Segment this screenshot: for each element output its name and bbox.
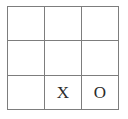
board-cell-r1c2[interactable] bbox=[45, 7, 82, 41]
cell-mark-r3c3: O bbox=[94, 84, 106, 101]
board-cell-r1c1[interactable] bbox=[8, 7, 45, 41]
board-cell-r3c1[interactable] bbox=[8, 76, 45, 110]
board-cell-r1c3[interactable] bbox=[82, 7, 119, 41]
board-cell-r2c3[interactable] bbox=[82, 41, 119, 75]
board-cell-r3c2[interactable]: X bbox=[45, 76, 82, 110]
board-grid: X O bbox=[7, 6, 119, 110]
cell-mark-r3c2: X bbox=[57, 84, 69, 101]
tic-tac-toe-board: X O bbox=[0, 0, 128, 119]
board-cell-r2c2[interactable] bbox=[45, 41, 82, 75]
board-cell-r3c3[interactable]: O bbox=[82, 76, 119, 110]
board-cell-r2c1[interactable] bbox=[8, 41, 45, 75]
